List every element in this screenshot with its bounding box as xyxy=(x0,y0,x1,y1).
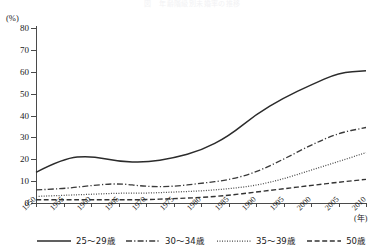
series-line-30〜34歳 xyxy=(36,128,366,190)
legend-swatch-dashed-icon xyxy=(306,236,342,246)
chart-figure: 図 年齢階級別未婚率の推移 (%) (年) 01020304050607080 … xyxy=(0,0,385,251)
legend-item-25-29[interactable]: 25〜29歳 xyxy=(36,236,116,246)
series-line-25〜29歳 xyxy=(36,71,366,173)
series-lines xyxy=(0,0,385,251)
legend-item-35-39[interactable]: 35〜39歳 xyxy=(216,236,296,246)
chart-legend: 25〜29歳 30〜34歳 35〜39歳 50歳 xyxy=(36,234,366,248)
legend-swatch-dashdot-icon xyxy=(125,236,161,246)
legend-item-30-34[interactable]: 30〜34歳 xyxy=(125,236,205,246)
legend-swatch-solid-icon xyxy=(36,236,72,246)
legend-item-50[interactable]: 50歳 xyxy=(306,236,366,246)
legend-swatch-dotted-icon xyxy=(216,236,252,246)
series-line-50歳 xyxy=(36,179,366,199)
legend-label-50: 50歳 xyxy=(346,236,366,246)
legend-label-30-34: 30〜34歳 xyxy=(165,236,205,246)
series-line-35〜39歳 xyxy=(36,153,366,197)
legend-label-25-29: 25〜29歳 xyxy=(76,236,116,246)
legend-label-35-39: 35〜39歳 xyxy=(256,236,296,246)
